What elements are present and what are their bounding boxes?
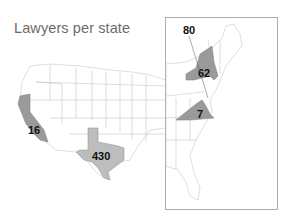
label-dc: 80 <box>183 24 195 36</box>
us-map: 16 430 62 7 80 <box>0 0 288 219</box>
label-new-york: 62 <box>198 67 210 79</box>
label-california: 16 <box>28 124 40 136</box>
label-texas: 430 <box>92 150 110 162</box>
label-virginia: 7 <box>197 108 203 120</box>
inset-east-coast: 62 7 80 <box>166 18 278 210</box>
